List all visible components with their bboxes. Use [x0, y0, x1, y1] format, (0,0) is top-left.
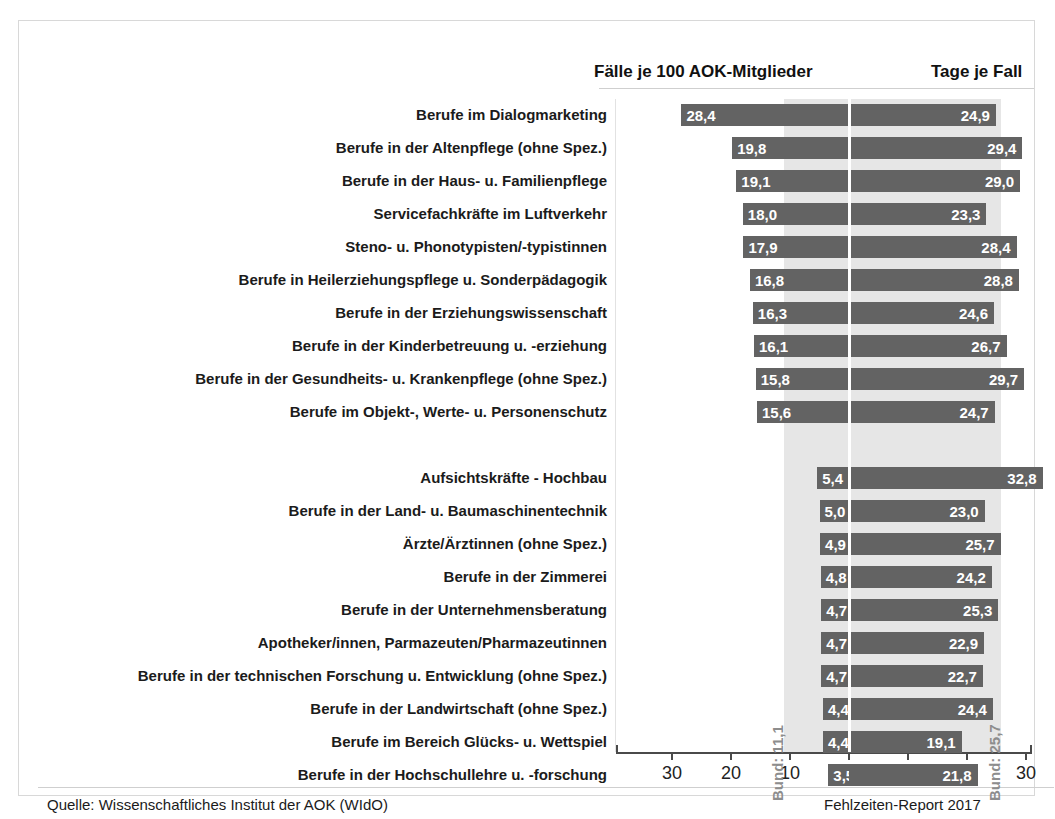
bar-value-tage: 25,7 [965, 536, 994, 553]
bar-tage: 32,8 [849, 467, 1043, 489]
bar-faelle: 4,7 [821, 632, 849, 654]
bund-band-right [849, 99, 1001, 752]
bar-tage: 25,3 [849, 599, 998, 621]
category-label: Ärzte/Ärztinnen (ohne Spez.) [37, 533, 607, 555]
column-header-tage: Tage je Fall [931, 62, 1022, 82]
bar-value-tage: 25,3 [963, 602, 992, 619]
bar-faelle: 17,9 [743, 236, 849, 258]
bar-faelle: 28,4 [681, 104, 849, 126]
bar-tage: 29,7 [849, 368, 1024, 390]
bar-value-tage: 24,4 [958, 701, 987, 718]
category-label: Berufe in der Altenpflege (ohne Spez.) [37, 137, 607, 159]
bar-tage: 26,7 [849, 335, 1007, 357]
bar-value-faelle: 4,4 [828, 701, 849, 718]
bar-value-faelle: 19,1 [741, 173, 770, 190]
x-axis-tick [966, 752, 968, 760]
category-label: Berufe im Bereich Glücks- u. Wettspiel [37, 731, 607, 753]
category-label: Servicefachkräfte im Luftverkehr [37, 203, 607, 225]
bar-tage: 24,9 [849, 104, 996, 126]
bar-value-tage: 23,3 [951, 206, 980, 223]
chart-row: 4,725,3 [616, 599, 1032, 621]
bar-value-faelle: 4,7 [826, 602, 847, 619]
bar-value-faelle: 4,7 [826, 635, 847, 652]
category-label: Steno- u. Phonotypisten/-typistinnen [37, 236, 607, 258]
bar-value-tage: 24,9 [961, 107, 990, 124]
bar-tage: 29,0 [849, 170, 1020, 192]
report-note: Fehlzeiten-Report 2017 [824, 796, 981, 813]
category-label: Berufe in der Land- u. Baumaschinentechn… [37, 500, 607, 522]
category-label: Berufe in der Gesundheits- u. Krankenpfl… [37, 368, 607, 390]
bar-tage: 19,1 [849, 731, 962, 753]
bar-value-faelle: 5,0 [825, 503, 846, 520]
chart-row: 5,023,0 [616, 500, 1032, 522]
bar-faelle: 15,8 [756, 368, 849, 390]
bar-value-faelle: 15,8 [761, 371, 790, 388]
category-label: Berufe in der Hochschullehre u. -forschu… [37, 764, 607, 786]
chart-row: 16,324,6 [616, 302, 1032, 324]
chart-row: 4,419,1 [616, 731, 1032, 753]
bar-value-faelle: 16,3 [758, 305, 787, 322]
chart-frame: Fälle je 100 AOK-Mitglieder Tage je Fall… [18, 20, 1035, 796]
center-axis-line [848, 99, 851, 752]
x-axis-tick [848, 752, 850, 760]
chart-row: 19,829,4 [616, 137, 1032, 159]
category-label: Berufe in der technischen Forschung u. E… [37, 665, 607, 687]
bar-faelle: 5,4 [817, 467, 849, 489]
bar-value-tage: 21,8 [942, 767, 971, 784]
chart-row: 28,424,9 [616, 104, 1032, 126]
bar-value-tage: 22,7 [948, 668, 977, 685]
bar-tage: 23,3 [849, 203, 986, 225]
bar-value-faelle: 28,4 [686, 107, 715, 124]
source-note: Quelle: Wissenschaftliches Institut der … [47, 796, 388, 813]
bar-tage: 22,9 [849, 632, 984, 654]
x-axis-tick [730, 752, 732, 760]
footer-divider [38, 787, 1054, 788]
bar-tage: 22,7 [849, 665, 983, 687]
category-label: Berufe in der Unternehmensberatung [37, 599, 607, 621]
bar-value-tage: 29,7 [989, 371, 1018, 388]
bar-faelle: 5,0 [820, 500, 850, 522]
column-header-faelle: Fälle je 100 AOK-Mitglieder [594, 62, 813, 82]
chart-row: 15,829,7 [616, 368, 1032, 390]
category-label: Aufsichtskräfte - Hochbau [37, 467, 607, 489]
chart-row: 19,129,0 [616, 170, 1032, 192]
bar-faelle: 4,7 [821, 665, 849, 687]
category-label-column: Berufe im DialogmarketingBerufe in der A… [29, 99, 607, 752]
chart-row: 17,928,4 [616, 236, 1032, 258]
chart-row: 4,424,4 [616, 698, 1032, 720]
chart-row: 4,824,2 [616, 566, 1032, 588]
x-axis-tick [671, 752, 673, 760]
bar-value-tage: 24,2 [957, 569, 986, 586]
chart-row: 4,722,9 [616, 632, 1032, 654]
bar-value-tage: 24,7 [960, 404, 989, 421]
bar-value-tage: 22,9 [949, 635, 978, 652]
bar-value-tage: 19,1 [926, 734, 955, 751]
bar-value-faelle: 16,1 [759, 338, 788, 355]
bund-annotation-right: Bund: 25,7 [986, 724, 1003, 801]
bar-value-tage: 29,4 [987, 140, 1016, 157]
bar-faelle: 18,0 [743, 203, 849, 225]
bar-faelle: 19,8 [732, 137, 849, 159]
bar-tage: 24,7 [849, 401, 995, 423]
bar-tage: 24,6 [849, 302, 994, 324]
bar-tage: 24,4 [849, 698, 993, 720]
chart-row: 5,432,8 [616, 467, 1032, 489]
x-axis-tick [1025, 752, 1027, 760]
chart-row: 3,521,8 [616, 764, 1032, 786]
chart-row: 16,828,8 [616, 269, 1032, 291]
bar-value-faelle: 19,8 [737, 140, 766, 157]
bund-annotation-left: Bund: 11,1 [769, 725, 786, 801]
bar-faelle: 4,7 [821, 599, 849, 621]
bar-value-tage: 24,6 [959, 305, 988, 322]
bar-faelle: 3,5 [828, 764, 849, 786]
bar-faelle: 19,1 [736, 170, 849, 192]
category-label: Apotheker/innen, Parmazeuten/Pharmazeuti… [37, 632, 607, 654]
bar-value-faelle: 15,6 [762, 404, 791, 421]
bar-value-faelle: 17,9 [748, 239, 777, 256]
bar-faelle: 4,4 [823, 698, 849, 720]
bar-faelle: 16,3 [753, 302, 849, 324]
bar-value-tage: 32,8 [1007, 470, 1036, 487]
bar-faelle: 4,8 [821, 566, 849, 588]
bar-value-faelle: 4,9 [825, 536, 846, 553]
bar-faelle: 16,1 [754, 335, 849, 357]
